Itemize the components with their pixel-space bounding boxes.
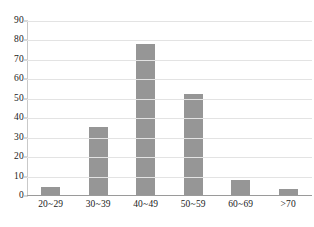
bar-series <box>27 21 312 195</box>
gridline <box>27 40 312 41</box>
bar <box>184 94 203 195</box>
bar-chart: 9080706050403020100 20~2930~3940~4950~59… <box>0 0 314 227</box>
x-axis: 20~2930~3940~4950~5960~69>70 <box>27 199 312 209</box>
x-axis-tick-label: 60~69 <box>217 199 265 209</box>
bar-slot <box>217 21 265 195</box>
bar <box>41 187 60 195</box>
y-axis-tick-label: 80 <box>0 36 24 46</box>
gridline <box>27 177 312 178</box>
gridline <box>27 21 312 22</box>
gridline <box>27 99 312 100</box>
gridline <box>27 79 312 80</box>
bar <box>231 180 250 195</box>
x-axis-tick-label: 40~49 <box>122 199 170 209</box>
x-axis-tick-label: 50~59 <box>170 199 218 209</box>
y-axis-tick-label: 60 <box>0 75 24 85</box>
y-axis-tick-label: 90 <box>0 16 24 26</box>
y-axis-tick-label: 30 <box>0 133 24 143</box>
x-axis-tick-label: >70 <box>265 199 313 209</box>
y-axis-tick-label: 50 <box>0 94 24 104</box>
y-axis-tick-label: 20 <box>0 152 24 162</box>
x-axis-line <box>27 195 312 196</box>
plot-area <box>27 21 312 196</box>
bar-slot <box>265 21 313 195</box>
bar <box>136 44 155 195</box>
y-axis-tick-label: 10 <box>0 172 24 182</box>
bar-slot <box>170 21 218 195</box>
bar <box>279 189 298 195</box>
bar-slot <box>27 21 75 195</box>
x-axis-tick-label: 20~29 <box>27 199 75 209</box>
gridline <box>27 138 312 139</box>
bar-slot <box>75 21 123 195</box>
gridline <box>27 157 312 158</box>
y-axis-tick-label: 0 <box>0 191 24 201</box>
y-axis: 9080706050403020100 <box>0 0 24 227</box>
gridline <box>27 60 312 61</box>
x-axis-tick-label: 30~39 <box>75 199 123 209</box>
y-axis-tick-label: 40 <box>0 113 24 123</box>
gridline <box>27 118 312 119</box>
y-axis-tick-label: 70 <box>0 55 24 65</box>
bar-slot <box>122 21 170 195</box>
